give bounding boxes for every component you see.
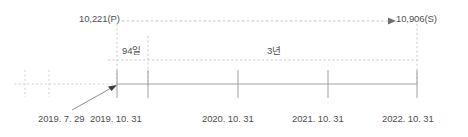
span-label-3-years: 3년 [267,43,281,57]
start-date-callout-line [72,87,113,110]
start-value-label: 10,221(P) [79,13,120,24]
date-label-2021-10-31: 2021. 10. 31 [292,113,344,124]
date-label-start: 2019. 7. 29 [38,113,84,124]
date-label-2020-10-31: 2020. 10. 31 [202,113,254,124]
span-label-94-days: 94일 [122,43,141,57]
value-connector-arrowhead [388,18,396,25]
end-value-label: 10,906(S) [396,13,437,24]
date-label-2019-10-31: 2019. 10. 31 [90,113,142,124]
timeline-figure: 10,221(P) 10,906(S) 94일 3년 2019. 7. 29 2… [0,0,468,137]
start-date-callout-arrowhead [108,85,117,91]
date-label-2022-10-31: 2022. 10. 31 [382,113,434,124]
